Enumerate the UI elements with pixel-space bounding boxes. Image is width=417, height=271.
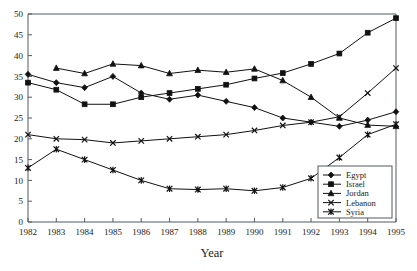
y-tick-label: 25 <box>14 113 24 123</box>
marker-triangle <box>252 66 258 72</box>
y-tick-label: 45 <box>14 30 24 40</box>
marker-diamond <box>280 115 286 121</box>
marker-star <box>308 175 314 182</box>
marker-square <box>365 30 370 35</box>
x-tick-label: 1986 <box>132 227 151 237</box>
chart-canvas: 0510152025303540455019821983198419851986… <box>0 0 417 271</box>
series-line-israel <box>28 18 396 104</box>
marker-square <box>252 76 257 81</box>
x-tick-label: 1990 <box>245 227 264 237</box>
y-tick-label: 30 <box>14 92 24 102</box>
marker-square <box>195 86 200 91</box>
marker-square <box>280 71 285 76</box>
x-tick-label: 1992 <box>302 227 320 237</box>
marker-star <box>54 146 60 153</box>
x-axis-title: Year <box>200 246 224 260</box>
marker-square <box>224 82 229 87</box>
marker-diamond <box>110 73 116 79</box>
marker-star <box>393 121 399 128</box>
marker-triangle <box>53 65 59 71</box>
marker-diamond <box>54 80 60 86</box>
marker-star <box>110 167 116 174</box>
marker-triangle <box>308 94 314 100</box>
y-tick-label: 50 <box>14 9 24 19</box>
marker-diamond <box>223 98 229 104</box>
x-tick-label: 1995 <box>387 227 406 237</box>
x-tick-label: 1987 <box>161 227 180 237</box>
marker-square <box>139 95 144 100</box>
marker-triangle <box>110 61 116 67</box>
marker-triangle <box>195 67 201 73</box>
marker-square <box>82 102 87 107</box>
y-tick-label: 40 <box>14 51 24 61</box>
marker-square <box>337 51 342 56</box>
marker-square <box>394 16 399 21</box>
marker-diamond <box>393 109 399 115</box>
x-tick-label: 1993 <box>330 227 349 237</box>
marker-star <box>138 177 144 184</box>
marker-diamond <box>167 96 173 102</box>
marker-star <box>337 154 343 161</box>
x-tick-label: 1985 <box>104 227 123 237</box>
marker-diamond <box>82 85 88 91</box>
y-tick-label: 15 <box>14 155 24 165</box>
y-tick-label: 10 <box>14 176 24 186</box>
x-tick-label: 1982 <box>19 227 37 237</box>
marker-square <box>167 91 172 96</box>
marker-diamond <box>195 92 201 98</box>
marker-star <box>82 156 88 163</box>
marker-star <box>365 131 371 138</box>
marker-diamond <box>252 105 258 111</box>
y-tick-label: 5 <box>19 196 24 206</box>
x-tick-label: 1984 <box>76 227 95 237</box>
y-tick-label: 20 <box>14 134 24 144</box>
x-tick-label: 1994 <box>359 227 378 237</box>
marker-x <box>365 90 370 95</box>
marker-square <box>111 102 116 107</box>
marker-star <box>25 165 31 172</box>
x-tick-label: 1991 <box>274 227 292 237</box>
marker-square <box>329 182 334 187</box>
marker-square <box>54 87 59 92</box>
marker-square <box>309 62 314 67</box>
x-tick-label: 1983 <box>47 227 66 237</box>
x-tick-label: 1988 <box>189 227 208 237</box>
line-chart: 0510152025303540455019821983198419851986… <box>0 0 417 271</box>
x-tick-label: 1989 <box>217 227 236 237</box>
legend-label-syria: Syria <box>346 207 364 217</box>
marker-square <box>26 80 31 85</box>
y-tick-label: 35 <box>14 72 24 82</box>
marker-diamond <box>337 123 343 129</box>
y-tick-label: 0 <box>19 217 24 227</box>
